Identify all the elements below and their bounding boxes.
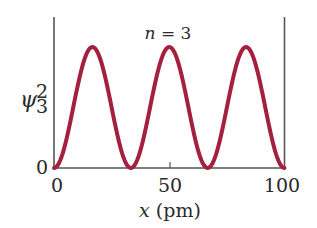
x-axis-title: x (pm) <box>139 199 201 221</box>
x-tick-label-0: 0 <box>51 174 63 196</box>
x-tick-label-50: 50 <box>158 174 182 196</box>
probability-density-curve <box>54 47 285 168</box>
n-label: n = 3 <box>145 23 192 43</box>
y-axis-title-subscript: 3 <box>36 95 48 117</box>
y-tick-label-0: 0 <box>36 156 48 178</box>
chart: n = 3 ψ 2 3 0 0 50 100 x (pm) <box>0 0 317 228</box>
x-tick-label-100: 100 <box>264 174 300 196</box>
